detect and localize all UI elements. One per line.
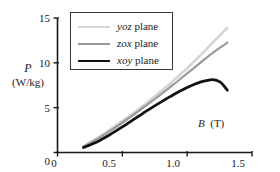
series-line-xoy: [83, 80, 227, 148]
y-tick-label: 5: [0, 103, 50, 114]
chart-figure: 0 5 10 15 0 0.5 1.0 1.5 P (W/kg) B (T) y…: [0, 0, 280, 172]
legend-item: yoz plane: [71, 19, 172, 34]
legend-item-label: zox plane: [117, 38, 158, 49]
x-axis-title: B (T): [198, 117, 254, 130]
x-axis-unit: (T): [210, 117, 224, 129]
legend-item-label: yoz plane: [117, 21, 158, 32]
legend-color-swatch: [78, 26, 110, 28]
legend-color-swatch: [78, 43, 110, 45]
legend-color-swatch: [78, 60, 110, 62]
x-tick-label: 0.5: [98, 158, 120, 169]
legend-item: zox plane: [71, 36, 172, 51]
y-axis-title: P (W/kg): [6, 62, 50, 88]
y-axis-unit: (W/kg): [6, 76, 50, 89]
x-tick-label: 1.0: [162, 158, 184, 169]
y-tick-label: 15: [0, 13, 50, 24]
y-axis-symbol: P: [6, 62, 50, 76]
x-axis-symbol: B: [198, 117, 205, 129]
x-tick-label: 0: [43, 158, 65, 169]
x-tick-label: 1.5: [227, 158, 249, 169]
chart-legend: yoz plane zox plane xoy plane: [70, 12, 173, 70]
legend-item: xoy plane: [71, 53, 172, 68]
legend-item-label: xoy plane: [117, 55, 159, 66]
